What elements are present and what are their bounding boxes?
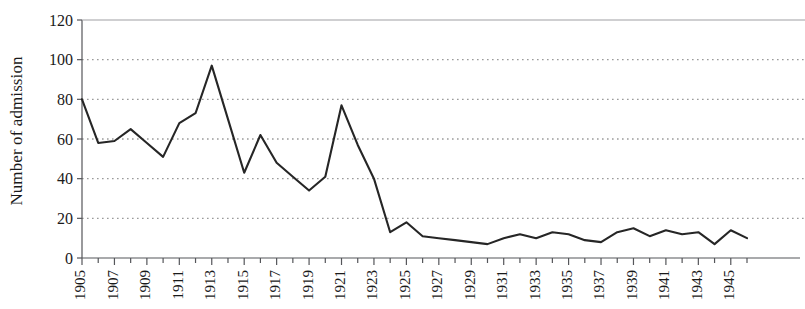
x-axis-tick-label: 1909 [137, 270, 153, 300]
x-axis-tick-label: 1919 [300, 270, 316, 300]
y-axis-tick-label: 40 [57, 170, 73, 187]
x-axis-tick-label: 1933 [527, 270, 543, 300]
x-axis-tick-label: 1945 [721, 270, 737, 300]
y-axis-tick-label: 60 [57, 131, 73, 148]
x-axis-tick-label: 1905 [72, 270, 88, 300]
y-axis-tick-label: 20 [57, 210, 73, 227]
x-axis-tick-label: 1915 [235, 270, 251, 300]
x-axis-ticks-group [82, 258, 747, 265]
admissions-data-line [82, 66, 747, 245]
x-axis-tick-label: 1937 [591, 270, 607, 301]
x-axis-tick-label: 1927 [429, 270, 445, 301]
x-axis-tick-label: 1935 [559, 270, 575, 300]
x-axis-tick-label: 1921 [332, 270, 348, 300]
x-axis-tick-label: 1931 [494, 270, 510, 300]
x-axis-tick-labels: 1905190719091911191319151917191919211923… [72, 270, 737, 301]
x-axis-tick-label: 1913 [202, 270, 218, 300]
y-axis-ticks-group [77, 20, 82, 258]
y-axis-tick-label: 0 [65, 250, 73, 267]
y-axis-tick-label: 80 [57, 91, 73, 108]
y-axis-tick-label: 100 [49, 51, 73, 68]
x-axis-tick-label: 1929 [462, 270, 478, 300]
x-axis-tick-label: 1917 [267, 270, 283, 301]
x-axis-tick-label: 1925 [397, 270, 413, 300]
x-axis-tick-label: 1943 [689, 270, 705, 300]
x-axis-tick-label: 1907 [105, 270, 121, 301]
admissions-line-chart: Number of admission 020406080100120 1905… [0, 0, 805, 309]
gridlines-group [82, 60, 805, 219]
y-axis-tick-label: 120 [49, 12, 73, 29]
x-axis-tick-label: 1911 [170, 270, 186, 299]
chart-plot-area: 020406080100120 190519071909191119131915… [0, 0, 805, 309]
y-axis-tick-labels: 020406080100120 [49, 12, 73, 267]
x-axis-tick-label: 1941 [656, 270, 672, 300]
x-axis-tick-label: 1939 [624, 270, 640, 300]
x-axis-tick-label: 1923 [364, 270, 380, 300]
